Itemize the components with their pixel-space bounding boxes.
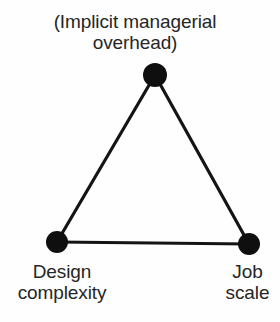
- edge-design-complexity-to-job-scale: [57, 242, 249, 244]
- node-design-complexity[interactable]: [46, 231, 68, 253]
- node-label-job-scale: Job scale: [196, 261, 280, 303]
- triangle-diagram: (Implicit managerial overhead) Design co…: [0, 0, 280, 322]
- node-label-design-complexity: Design complexity: [0, 261, 124, 303]
- node-label-implicit-managerial-overhead: (Implicit managerial overhead): [20, 11, 250, 53]
- node-implicit-managerial-overhead[interactable]: [143, 63, 167, 87]
- edge-apex-to-design-complexity: [57, 75, 155, 242]
- edge-apex-to-job-scale: [155, 75, 249, 244]
- node-job-scale[interactable]: [238, 233, 260, 255]
